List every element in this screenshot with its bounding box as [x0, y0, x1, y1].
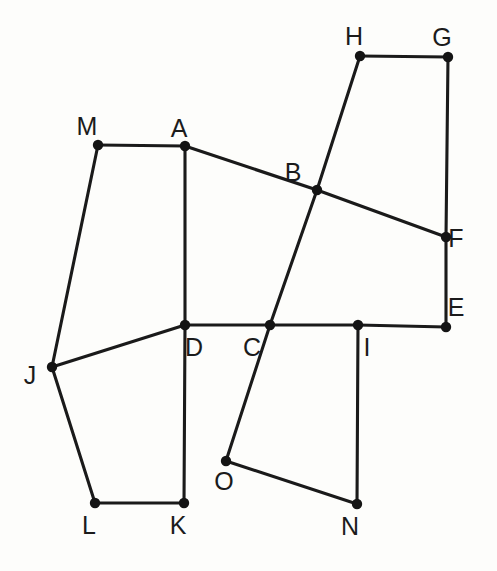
- vertex-label-k: K: [170, 513, 187, 538]
- geometry-figure: ABCDEFGHIJKLMNO: [0, 0, 497, 571]
- vertex-label-m: M: [77, 114, 98, 139]
- edge-m-j: [52, 145, 98, 367]
- edges-group: [52, 56, 448, 504]
- vertex-label-b: B: [285, 160, 302, 185]
- vertex-label-d: D: [185, 335, 203, 360]
- vertex-point-l: [90, 498, 100, 508]
- vertex-point-g: [443, 52, 453, 62]
- vertex-label-e: E: [448, 295, 465, 320]
- vertex-label-f: F: [448, 226, 463, 251]
- edge-h-g: [360, 56, 448, 57]
- edge-o-n: [226, 461, 357, 504]
- vertex-point-e: [441, 322, 451, 332]
- vertex-label-n: N: [341, 514, 359, 539]
- vertex-label-o: O: [214, 469, 233, 494]
- edge-j-d: [52, 325, 185, 367]
- vertex-point-b: [312, 185, 322, 195]
- edge-i-e: [358, 325, 446, 327]
- edge-g-f: [446, 57, 448, 237]
- figure-canvas: [0, 0, 497, 571]
- vertex-point-j: [47, 362, 57, 372]
- vertices-group: [47, 51, 453, 509]
- edge-i-n: [357, 325, 358, 504]
- edge-b-f: [317, 190, 446, 237]
- vertex-label-j: J: [24, 363, 37, 388]
- vertex-label-c: C: [243, 335, 261, 360]
- vertex-point-o: [221, 456, 231, 466]
- vertex-point-a: [180, 141, 190, 151]
- edge-b-c: [270, 190, 317, 325]
- vertex-point-c: [265, 320, 275, 330]
- vertex-point-h: [355, 51, 365, 61]
- vertex-label-g: G: [432, 25, 451, 50]
- vertex-label-a: A: [171, 116, 188, 141]
- vertex-point-d: [180, 320, 190, 330]
- vertex-point-n: [352, 499, 362, 509]
- vertex-label-l: L: [82, 513, 96, 538]
- vertex-point-i: [353, 320, 363, 330]
- edge-h-b: [317, 56, 360, 190]
- edge-m-a: [98, 145, 185, 146]
- vertex-label-i: I: [364, 335, 371, 360]
- vertex-point-m: [93, 140, 103, 150]
- vertex-label-h: H: [345, 24, 363, 49]
- vertex-point-k: [179, 498, 189, 508]
- edge-j-l: [52, 367, 95, 503]
